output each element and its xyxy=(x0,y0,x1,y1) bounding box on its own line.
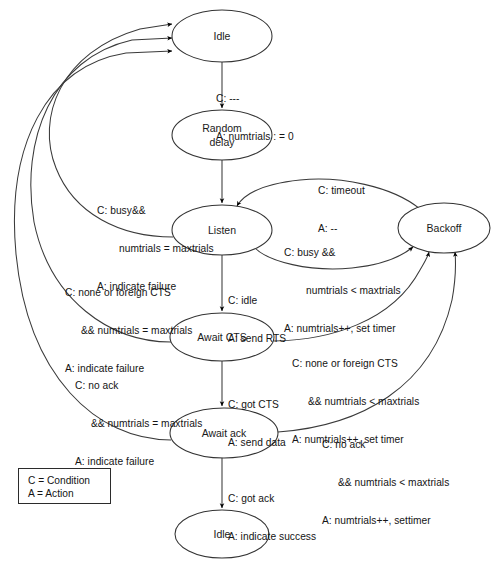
state-label-idle-top: Idle xyxy=(214,30,231,42)
state-label-backoff: Backoff xyxy=(427,222,462,234)
condition-text: C: got CTS xyxy=(228,399,286,412)
action-text: A: send RTS xyxy=(228,333,286,346)
edge-label-listen-to-awaitcts: C: idle A: send RTS xyxy=(228,270,286,371)
edge-label-idle-to-random: C: --- A: numtrials : = 0 xyxy=(216,68,294,169)
condition-text: C: busy && xyxy=(284,247,401,260)
condition-text-cont: && numtrials < maxtrials xyxy=(292,396,419,409)
condition-text-cont: numtrials = maxtrials xyxy=(97,243,214,256)
condition-text: C: no ack xyxy=(75,380,202,393)
condition-text-cont: && numtrials = maxtrials xyxy=(65,325,192,338)
condition-text: C: idle xyxy=(228,295,286,308)
state-node-idle-top[interactable]: Idle xyxy=(172,10,272,62)
state-machine-diagram: Idle Random delay Listen Backoff Await C… xyxy=(0,0,499,569)
edge-label-awaitcts-to-awaitack: C: got CTS A: send data xyxy=(228,374,286,475)
condition-text: C: busy&& xyxy=(97,205,214,218)
action-text: A: send data xyxy=(228,437,286,450)
condition-text-cont: && numtrials < maxtrials xyxy=(322,477,449,490)
condition-text: C: --- xyxy=(216,93,294,106)
condition-text: C: none or foreign CTS xyxy=(292,358,419,371)
action-text: A: indicate success xyxy=(228,531,316,544)
action-text: A: numtrials++, settimer xyxy=(322,515,449,528)
condition-text: C: no ack xyxy=(322,439,449,452)
condition-text-cont: && numtrials = maxtrials xyxy=(75,418,202,431)
condition-text-cont: numtrials < maxtrials xyxy=(284,285,401,298)
action-text: A: numtrials : = 0 xyxy=(216,131,294,144)
edge-label-awaitack-to-backoff: C: no ack && numtrials < maxtrials A: nu… xyxy=(322,414,449,553)
edge-label-awaitack-to-idlebottom: C: got ack A: indicate success xyxy=(228,468,316,569)
legend-line-condition: C = Condition xyxy=(28,474,101,487)
legend-line-action: A = Action xyxy=(28,487,101,500)
legend-box: C = Condition A = Action xyxy=(18,468,111,504)
condition-text: C: none or foreign CTS xyxy=(65,287,192,300)
action-text: A: indicate failure xyxy=(75,456,202,469)
condition-text: C: got ack xyxy=(228,493,316,506)
condition-text: C: timeout xyxy=(318,185,365,198)
state-node-backoff[interactable]: Backoff xyxy=(398,203,490,253)
